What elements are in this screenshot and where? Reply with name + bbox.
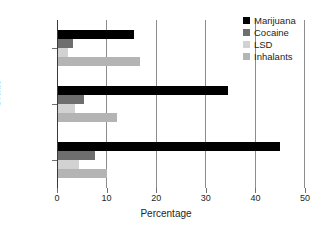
x-tick-label: 30 bbox=[201, 193, 211, 204]
legend-swatch-cocaine bbox=[243, 29, 250, 36]
bar-lsd-10th bbox=[57, 104, 75, 113]
gridline-50 bbox=[304, 20, 305, 188]
legend-swatch-marijuana bbox=[243, 17, 250, 24]
legend-label-cocaine: Cocaine bbox=[254, 27, 289, 38]
bar-lsd-8th bbox=[57, 48, 68, 57]
gridline-10 bbox=[106, 20, 107, 188]
x-tick-label: 10 bbox=[102, 193, 112, 204]
gridline-30 bbox=[205, 20, 206, 188]
legend-item-lsd[interactable]: LSD bbox=[243, 39, 296, 50]
legend-item-inhalants[interactable]: Inhalants bbox=[243, 51, 296, 62]
y-tick-mark bbox=[52, 104, 57, 105]
legend-item-cocaine[interactable]: Cocaine bbox=[243, 27, 296, 38]
legend-label-lsd: LSD bbox=[254, 39, 272, 50]
bar-marijuana-12th bbox=[57, 142, 280, 151]
legend-item-marijuana[interactable]: Marijuana bbox=[243, 15, 296, 26]
x-axis-title: Percentage bbox=[0, 208, 332, 219]
gridline-20 bbox=[156, 20, 157, 188]
bar-lsd-12th bbox=[57, 160, 79, 169]
y-tick-mark bbox=[52, 48, 57, 49]
bar-cocaine-10th bbox=[57, 95, 84, 104]
bar-cocaine-12th bbox=[57, 151, 95, 160]
x-tick-label: 50 bbox=[300, 193, 310, 204]
legend-swatch-inhalants bbox=[243, 53, 250, 60]
bar-cocaine-8th bbox=[57, 39, 73, 48]
y-tick-mark bbox=[52, 160, 57, 161]
legend-swatch-lsd bbox=[243, 41, 250, 48]
legend: MarijuanaCocaineLSDInhalants bbox=[243, 15, 296, 63]
y-axis-title: Grade bbox=[0, 80, 2, 108]
y-axis-line bbox=[57, 20, 58, 188]
bar-marijuana-8th bbox=[57, 30, 134, 39]
legend-label-marijuana: Marijuana bbox=[254, 15, 296, 26]
bar-inhalants-8th bbox=[57, 57, 140, 66]
legend-label-inhalants: Inhalants bbox=[254, 51, 293, 62]
bar-inhalants-10th bbox=[57, 113, 117, 122]
x-tick-label: 0 bbox=[54, 193, 59, 204]
x-tick-label: 40 bbox=[250, 193, 260, 204]
bar-marijuana-10th bbox=[57, 86, 228, 95]
bar-chart: 01020304050 8th10th12th Percentage Grade… bbox=[0, 0, 332, 236]
bar-inhalants-12th bbox=[57, 169, 107, 178]
x-tick-label: 20 bbox=[151, 193, 161, 204]
